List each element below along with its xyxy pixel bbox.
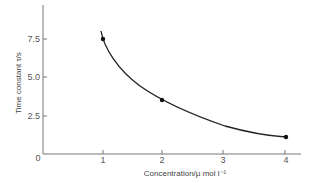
y-axis-label: Time constant τ/s: [14, 52, 23, 114]
data-point: [160, 98, 164, 102]
chart: 7.5 5.0 2.5 0 1 2 3 4 Concentration/μ mo…: [0, 0, 315, 183]
fit-curve: [101, 31, 286, 137]
x-tick-label: 0: [35, 153, 40, 163]
y-ticks: 7.5 5.0 2.5: [27, 34, 47, 121]
data-point: [101, 37, 105, 41]
y-tick-label: 7.5: [27, 34, 40, 44]
data-point: [284, 135, 288, 139]
x-tick-label: 3: [220, 155, 225, 165]
x-axis-label: Concentration/μ mol l⁻¹: [144, 169, 227, 178]
data-points: [101, 37, 288, 139]
y-tick-label: 2.5: [27, 111, 40, 121]
y-tick-label: 5.0: [27, 72, 40, 82]
x-ticks: 0 1 2 3 4: [35, 150, 288, 165]
x-tick-label: 1: [100, 155, 105, 165]
x-tick-label: 2: [159, 155, 164, 165]
x-tick-label: 4: [283, 155, 288, 165]
